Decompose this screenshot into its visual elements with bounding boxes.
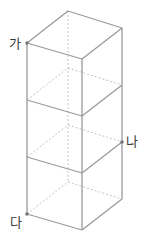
label-da: 다: [10, 215, 22, 230]
hidden-edge-l1-left: [27, 68, 68, 100]
hidden-edge-l2-left: [27, 125, 68, 157]
points: [25, 41, 124, 216]
edge-l1-right: [82, 85, 122, 116]
label-ga: 가: [9, 36, 21, 51]
edge-bottom-front: [27, 214, 82, 230]
hidden-edges: [27, 11, 122, 214]
hidden-edge-l1-back: [68, 68, 122, 85]
edge-l2-right: [82, 142, 122, 173]
edge-l1-front: [27, 100, 82, 116]
stacked-cubes-diagram: 가 나 다: [0, 0, 148, 236]
label-na: 나: [126, 134, 138, 149]
point-ga: [25, 41, 29, 45]
hidden-edge-l2-back: [68, 125, 122, 142]
top-face: [27, 11, 122, 59]
hidden-edge-bottom-left: [27, 182, 68, 214]
visible-edges: [27, 11, 122, 230]
edge-l2-front: [27, 157, 82, 173]
point-na: [120, 140, 124, 144]
point-da: [25, 212, 29, 216]
edge-bottom-right: [82, 199, 122, 230]
cube-stack-figure: 가 나 다: [0, 0, 148, 236]
hidden-edge-bottom-back: [68, 182, 122, 199]
